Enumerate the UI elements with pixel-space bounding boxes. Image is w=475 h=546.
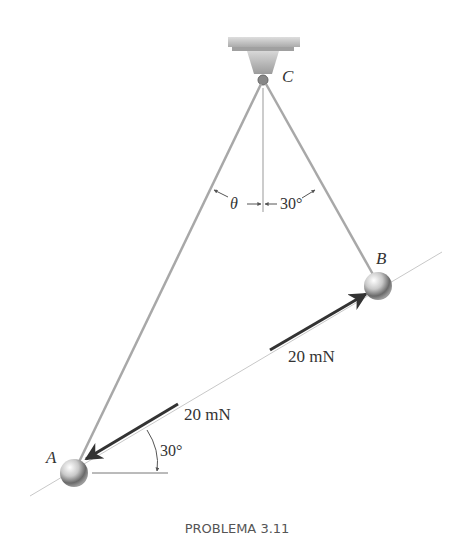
label-force-a: 20 mN xyxy=(184,405,231,424)
label-angle-30-top: 30° xyxy=(280,195,302,212)
string-ca xyxy=(79,84,261,462)
problem-figure: C B A θ 30° 30° 20 mN 20 mN PROBLEMA 3.1… xyxy=(0,0,475,546)
label-angle-30-bottom: 30° xyxy=(160,442,182,459)
force-arrow-b xyxy=(270,294,366,350)
label-a: A xyxy=(45,448,57,467)
label-c: C xyxy=(282,67,294,86)
figure-caption: PROBLEMA 3.11 xyxy=(185,521,290,536)
ball-a xyxy=(60,459,88,487)
label-force-b: 20 mN xyxy=(288,347,335,366)
string-cb xyxy=(266,84,375,278)
ball-b xyxy=(364,272,392,300)
label-b: B xyxy=(376,249,387,268)
angle30-arrow-right xyxy=(302,190,315,198)
theta-arrow xyxy=(214,190,228,197)
angle-arc-force xyxy=(147,430,158,471)
label-theta: θ xyxy=(230,195,238,212)
